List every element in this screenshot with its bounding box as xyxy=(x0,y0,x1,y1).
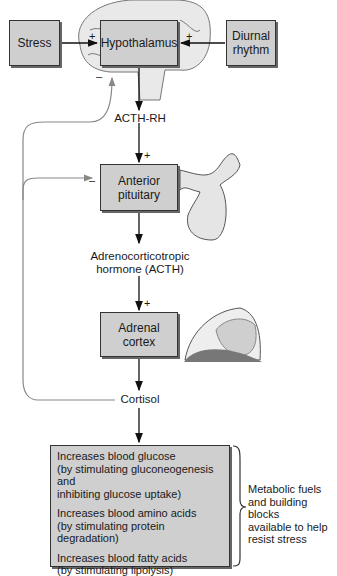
cortisol-label: Cortisol xyxy=(115,393,165,406)
stress-label: Stress xyxy=(17,36,51,50)
adrenal-label: Adrenal cortex xyxy=(101,321,177,349)
hypothalamus-minus-sign: – xyxy=(96,71,102,82)
effect-amino-acids: Increases blood amino acids(by stimulati… xyxy=(57,507,223,545)
effects-box: Increases blood glucose(by stimulating g… xyxy=(50,445,230,567)
hypothalamus-box: Hypothalamus xyxy=(100,20,178,66)
acth-rh-label: ACTH-RH xyxy=(110,112,170,125)
adrenal-illustration xyxy=(184,308,262,362)
adrenal-cortex-box: Adrenal cortex xyxy=(100,312,178,357)
acth-label-1: Adrenocorticotropic xyxy=(84,250,196,263)
hypothalamus-label: Hypothalamus xyxy=(101,36,178,50)
stress-box: Stress xyxy=(9,20,60,66)
summary-text: Metabolic fuelsand building blocksavaila… xyxy=(248,483,337,546)
pituitary-minus-sign: – xyxy=(89,175,95,186)
summary-brace xyxy=(233,446,246,566)
diurnal-plus-sign: + xyxy=(186,31,192,42)
anterior-pituitary-box: Anteriorpituitary xyxy=(100,164,178,211)
diurnal-label-1: Diurnal xyxy=(232,29,270,43)
anterior-label-1: Anterior xyxy=(118,174,160,188)
acth-label-2: hormone (ACTH) xyxy=(84,263,196,276)
diurnal-rhythm-box: Diurnalrhythm xyxy=(226,20,276,66)
effect-glucose: Increases blood glucose(by stimulating g… xyxy=(57,450,223,500)
acth-rh-plus-sign: + xyxy=(144,150,150,161)
diurnal-label-2: rhythm xyxy=(233,43,270,57)
acth-plus-sign: + xyxy=(144,298,150,309)
anterior-label-2: pituitary xyxy=(118,188,160,202)
effect-fatty-acids: Increases blood fatty acids(by stimulati… xyxy=(57,552,223,576)
pituitary-illustration xyxy=(180,154,240,240)
stress-plus-sign: + xyxy=(89,31,95,42)
